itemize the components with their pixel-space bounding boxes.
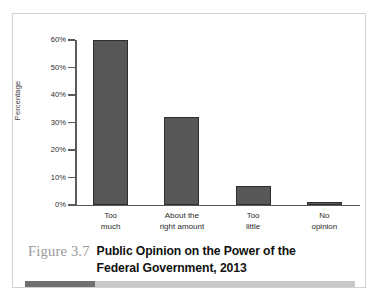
y-tick-label: 10% <box>38 174 66 182</box>
y-axis-title: Percentage <box>13 66 22 136</box>
y-tick-label: 50% <box>38 64 66 72</box>
caption-bottom-rule-accent <box>25 281 95 287</box>
bar-about-the-right-amount <box>164 117 199 205</box>
y-tick-label: 20% <box>38 146 66 154</box>
y-tick-mark <box>68 177 75 178</box>
y-axis-line <box>75 40 77 206</box>
y-tick-mark <box>68 67 75 68</box>
caption-bottom-rule <box>25 281 355 287</box>
y-tick-mark <box>68 149 75 150</box>
y-tick-label: 0% <box>38 201 66 209</box>
bar-no-opinion <box>307 202 342 205</box>
y-tick-label: 30% <box>38 119 66 127</box>
figure-root: Percentage 0% 10% 20% 30% 40% 50% 60% To… <box>0 0 380 303</box>
figure-title-line-2: Federal Government, 2013 <box>97 260 296 277</box>
bar-too-much <box>93 40 128 205</box>
y-tick-mark <box>68 39 75 40</box>
y-tick-mark <box>68 122 75 123</box>
y-tick-label: 60% <box>38 36 66 44</box>
y-tick-mark <box>68 204 75 205</box>
figure-number-label: Figure 3.7 <box>28 243 90 260</box>
bar-too-little <box>236 186 271 205</box>
y-tick-mark <box>68 94 75 95</box>
figure-title: Public Opinion on the Power of the Feder… <box>97 243 296 276</box>
figure-caption: Figure 3.7 Public Opinion on the Power o… <box>28 243 348 276</box>
figure-title-line-1: Public Opinion on the Power of the <box>97 243 296 260</box>
y-tick-label: 40% <box>38 91 66 99</box>
x-tick-label-no-opinion: No opinion <box>281 211 368 232</box>
